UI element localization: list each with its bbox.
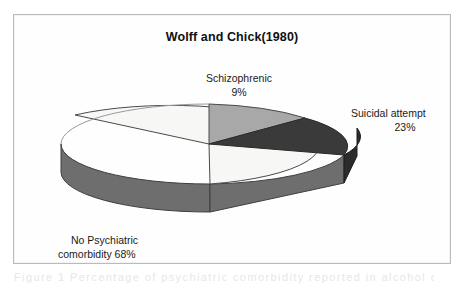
slice-label-no-psychiatric-value: comorbidity 68% [58,248,138,262]
slice-label-schizophrenic: Schizophrenic 9% [173,72,305,99]
slice-label-schizophrenic-name: Schizophrenic [173,72,305,86]
pie-chart: Schizophrenic 9% Suicidal attempt 23% No… [14,15,452,265]
slice-label-no-psychiatric: No Psychiatric comorbidity 68% [58,234,138,261]
pie-side-no-psychiatric [61,144,210,212]
pie-side-suicidal-attempt [344,128,360,183]
slice-label-no-psychiatric-name: No Psychiatric [58,234,138,248]
chart-frame: Wolff and Chick(1980) Schizophrenic 9% [13,14,451,264]
slice-label-suicidal-attempt-value: 23% [351,121,459,135]
slice-label-suicidal-attempt: Suicidal attempt 23% [351,107,459,134]
page-caption-fragment: Figure 1 Percentage of psychiatric comor… [14,271,434,283]
slice-label-schizophrenic-value: 9% [173,86,305,100]
pie-svg [14,15,452,265]
slice-label-suicidal-attempt-name: Suicidal attempt [351,107,459,121]
